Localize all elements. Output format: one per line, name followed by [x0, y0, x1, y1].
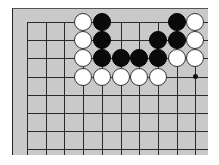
black-stone: [168, 31, 186, 49]
white-stone: [149, 68, 167, 86]
grid-line-vertical: [121, 22, 122, 155]
grid-line-horizontal: [27, 95, 208, 96]
grid-line-horizontal: [27, 131, 208, 132]
grid-line-vertical: [64, 22, 65, 155]
star-point: [193, 74, 198, 79]
white-stone: [93, 68, 111, 86]
black-stone: [93, 13, 111, 31]
white-stone: [130, 68, 148, 86]
black-stone: [149, 31, 167, 49]
grid-line-horizontal: [27, 149, 208, 150]
black-stone: [168, 13, 186, 31]
grid-line-vertical: [27, 22, 28, 155]
white-stone: [74, 68, 92, 86]
grid-line-vertical: [46, 22, 47, 155]
white-stone: [168, 49, 186, 67]
black-stone: [112, 49, 130, 67]
grid-line-vertical: [139, 22, 140, 155]
white-stone: [74, 13, 92, 31]
grid-line-horizontal: [27, 113, 208, 114]
black-stone: [93, 31, 111, 49]
white-stone: [112, 68, 130, 86]
